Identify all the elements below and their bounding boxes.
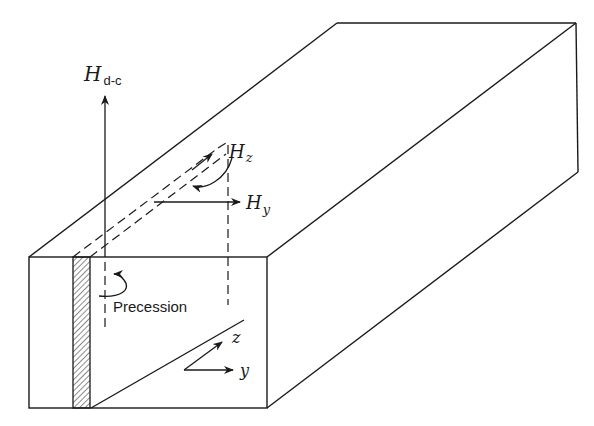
h-dc-label: Hd-c (83, 62, 122, 88)
h-y-label: Hy (245, 192, 271, 217)
z-axis-label: z (231, 328, 241, 347)
top-right-edge (267, 23, 576, 257)
y-axis-label: y (239, 361, 250, 380)
precession: Precession (99, 274, 187, 315)
slab-top-dashed-right (90, 154, 226, 257)
waveguide-diagram: Hd-c Hz Hy Precession z y (0, 0, 594, 426)
precession-label: Precession (113, 298, 187, 315)
hatched-slab-face (73, 257, 90, 408)
slab-top-dashed-cap (218, 143, 226, 148)
h-z-field: Hz (192, 141, 253, 187)
precession-curved-arrow (99, 274, 126, 296)
top-left-edge (29, 23, 337, 257)
slab-bottom-diagonal (91, 320, 244, 408)
z-axis-arrow (184, 342, 222, 370)
h-z-label: Hz (228, 141, 253, 165)
back-right-edge (576, 23, 578, 172)
diagram-canvas: Hd-c Hz Hy Precession z y (0, 0, 594, 426)
ferrite-slab (73, 143, 244, 408)
bottom-right-edge (267, 172, 578, 408)
